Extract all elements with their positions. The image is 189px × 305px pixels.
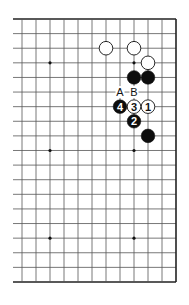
stone-circle (127, 71, 141, 85)
star-point (48, 149, 51, 152)
white-stone (141, 56, 155, 70)
white-stone (99, 41, 113, 55)
point-label-b: B (130, 86, 137, 98)
go-board-diagram: AB 1234 (0, 0, 189, 305)
stone-circle (141, 71, 155, 85)
stone-circle (127, 41, 141, 55)
star-point (132, 149, 135, 152)
star-point (132, 237, 135, 240)
move-number: 2 (131, 115, 137, 127)
black-stone-4: 4 (113, 100, 127, 114)
white-stone-1: 1 (141, 100, 155, 114)
move-number: 3 (131, 101, 137, 113)
stone-circle (99, 41, 113, 55)
white-stone (127, 41, 141, 55)
stone-circle (141, 129, 155, 143)
move-number: 1 (145, 101, 151, 113)
black-stone-2: 2 (127, 114, 141, 128)
stone-circle (141, 56, 155, 70)
star-point (48, 237, 51, 240)
move-number: 4 (117, 101, 124, 113)
star-point (132, 61, 135, 64)
black-stone (127, 71, 141, 85)
black-stone (141, 71, 155, 85)
black-stone (141, 129, 155, 143)
star-point (48, 61, 51, 64)
white-stone-3: 3 (127, 100, 141, 114)
point-label-a: A (116, 86, 124, 98)
